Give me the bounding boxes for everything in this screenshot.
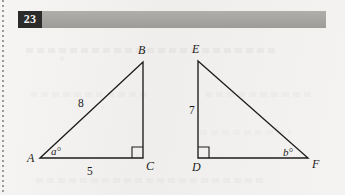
triangle-abc-outline xyxy=(40,62,143,158)
vertex-label-a: A xyxy=(27,152,34,164)
side-label-ab: 8 xyxy=(78,98,84,110)
vertex-label-e: E xyxy=(192,43,199,55)
side-label-ac: 5 xyxy=(87,166,93,178)
vertex-label-c: C xyxy=(146,160,154,172)
triangle-def-outline xyxy=(198,61,308,158)
vertex-label-b: B xyxy=(138,44,145,56)
angle-label-f: b° xyxy=(283,147,293,158)
triangle-def xyxy=(198,61,308,158)
triangle-abc xyxy=(40,62,143,158)
angle-label-a: a° xyxy=(51,146,61,157)
scanned-page: 23 A B C 8 5 a° E D F 7 b° xyxy=(0,0,345,195)
side-label-de: 7 xyxy=(189,105,195,117)
right-angle-marker-c xyxy=(132,147,143,158)
vertex-label-f: F xyxy=(312,158,319,170)
right-angle-marker-d xyxy=(198,147,209,158)
vertex-label-d: D xyxy=(192,161,201,173)
geometry-figure xyxy=(0,0,345,195)
